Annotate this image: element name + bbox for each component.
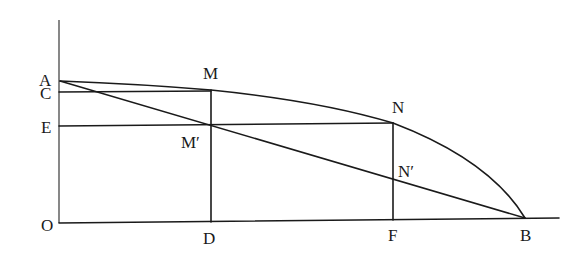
label-m: M [203, 64, 218, 83]
diagram-canvas: A C E O M M′ D N N′ F B [0, 0, 588, 263]
label-d: D [203, 229, 215, 248]
line-ab [60, 81, 525, 218]
label-n-prime: N′ [398, 162, 414, 181]
horizontal-axis [59, 218, 559, 223]
geometry-figure: A C E O M M′ D N N′ F B [0, 0, 588, 263]
label-b: B [520, 226, 531, 245]
label-m-prime: M′ [181, 133, 200, 152]
label-c: C [40, 84, 51, 103]
line-cm [59, 91, 211, 92]
label-n: N [392, 98, 404, 117]
label-e: E [41, 118, 51, 137]
label-f: F [388, 226, 397, 245]
line-en [59, 123, 393, 126]
label-o: O [41, 216, 53, 235]
